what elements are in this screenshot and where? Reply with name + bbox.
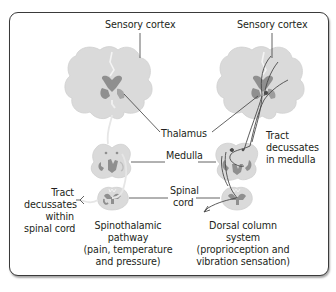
right-caption-line1: Dorsal column (188, 220, 298, 232)
spinothalamic-caption: Spinothalamic pathway (pain, temperature… (78, 220, 178, 268)
left-caption-line1: Spinothalamic (78, 220, 178, 232)
spinal-cord-label: Spinal cord (170, 185, 199, 209)
left-caption-line4: and pressure) (78, 256, 178, 268)
right-side-label-line3: in medulla (266, 154, 319, 166)
right-medulla-section (216, 143, 258, 180)
tract-decussates-spinal-cord-label: Tract decussates within spinal cord (24, 187, 74, 235)
left-side-label-line2: decussates (24, 199, 74, 211)
dorsal-column-caption: Dorsal column system (proprioception and… (188, 220, 298, 268)
spinal-cord-label-line2: cord (170, 197, 199, 209)
thalamus-label: Thalamus (161, 128, 207, 140)
spinal-cord-label-line1: Spinal (170, 185, 199, 197)
left-side-label-line1: Tract (24, 187, 74, 199)
medulla-label: Medulla (166, 150, 203, 162)
left-brain-section (65, 47, 152, 119)
tract-decussates-medulla-label: Tract decussates in medulla (266, 130, 319, 166)
left-caption-line2: pathway (78, 232, 178, 244)
right-spinal-cord-section (222, 187, 253, 210)
right-side-label-line1: Tract (266, 130, 319, 142)
left-sensory-cortex-label: Sensory cortex (105, 19, 175, 31)
right-caption-line4: vibration sensation) (188, 256, 298, 268)
left-side-label-line4: spinal cord (24, 223, 74, 235)
right-caption-line3: (proprioception and (188, 244, 298, 256)
right-side-label-line2: decussates (266, 142, 319, 154)
left-caption-line3: (pain, temperature (78, 244, 178, 256)
right-sensory-cortex-label: Sensory cortex (237, 19, 307, 31)
right-caption-line2: system (188, 232, 298, 244)
left-side-label-line3: within (24, 211, 74, 223)
